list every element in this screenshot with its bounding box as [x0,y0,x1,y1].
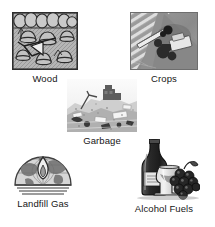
figure-item-label: Alcohol Fuels [135,203,193,215]
figure-item-label: Crops [151,73,177,85]
figure-item-alcohol-fuels: Alcohol Fuels [128,138,200,215]
figure-item-garbage: Garbage [67,79,137,147]
landfill-gas-globe-flame-logo-icon [11,145,75,195]
figure-item-crops: Crops [130,12,198,85]
figure-item-label: Garbage [83,135,121,147]
figure-item-label: Landfill Gas [17,198,68,210]
wood-forest-illustration-icon [12,12,78,70]
crops-aerial-photo-icon [130,12,198,70]
figure-item-wood: Wood [12,12,78,85]
figure-item-landfill-gas: Landfill Gas [11,145,75,210]
alcohol-fuels-bottle-glass-grapes-icon [128,138,200,200]
figure-item-label: Wood [32,73,57,85]
biomass-sources-figure: Wood [0,0,215,227]
garbage-landfill-photo-icon [67,79,137,132]
